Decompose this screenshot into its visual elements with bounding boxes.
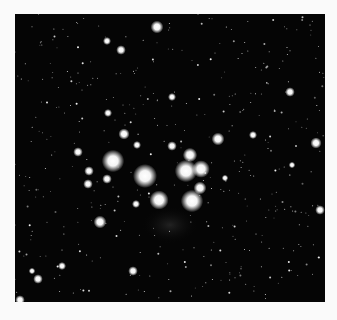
star [58,262,66,270]
star [192,160,210,178]
star [222,175,228,181]
star [84,166,94,176]
star [168,93,176,101]
bright-stars [15,21,325,302]
star [102,150,124,172]
star [133,141,141,149]
star [132,200,140,208]
star [212,133,225,146]
star-field [15,14,325,302]
star [128,266,138,276]
star [181,190,203,212]
star [29,268,35,274]
star [103,37,111,45]
star [315,205,325,215]
star [167,141,177,151]
star-cluster-photo [15,14,325,302]
star [151,21,164,34]
star [15,295,25,302]
star [116,45,126,55]
star [94,216,107,229]
star [83,179,93,189]
star [289,162,295,168]
star [118,128,129,139]
star [310,137,321,148]
star [33,274,43,284]
star [102,174,112,184]
star [133,164,157,188]
star [73,147,83,157]
star [249,131,257,139]
star [285,87,295,97]
faint-stars [15,14,324,299]
star [149,190,168,209]
star [104,109,112,117]
